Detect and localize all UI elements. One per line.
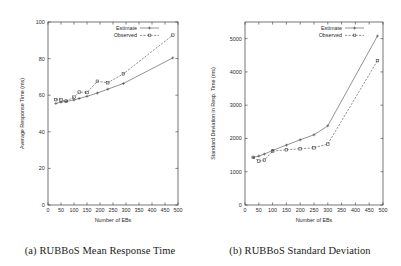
x-tick-label: 100 (268, 207, 277, 213)
y-tick-label: 100 (36, 19, 45, 25)
caption-a: (a) RUBBoS Mean Response Time (0, 245, 200, 256)
x-tick-label: 500 (174, 207, 183, 213)
y-tick-label: 0 (239, 202, 242, 208)
figure-row: 0501001502002503003504004505000204060801… (0, 0, 401, 235)
y-tick-label: 60 (39, 92, 45, 98)
x-tick-label: 200 (96, 207, 105, 213)
legend-label: Observed (114, 32, 137, 38)
legend: EstimateObserved (114, 25, 159, 38)
caption-row: (a) RUBBoS Mean Response Time (b) RUBBoS… (0, 235, 401, 266)
x-tick-label: 0 (244, 207, 247, 213)
series-estimate (252, 34, 379, 158)
y-tick-label: 4000 (230, 69, 242, 75)
y-tick-label: 5000 (230, 36, 242, 42)
x-tick-label: 450 (365, 207, 374, 213)
y-tick-label: 1000 (230, 169, 242, 175)
series-line (253, 36, 377, 157)
legend-label: Estimate (321, 25, 342, 31)
x-tick-label: 400 (148, 207, 157, 213)
data-point (376, 59, 379, 62)
legend: EstimateObserved (319, 25, 364, 38)
x-tick-label: 50 (58, 207, 64, 213)
plot-frame (48, 22, 178, 205)
x-tick-label: 50 (256, 207, 262, 213)
chart-b: 0501001502002503003504004505000100020003… (200, 0, 400, 235)
x-tick-label: 350 (135, 207, 144, 213)
y-axis-label: Standard Deviation in Resp. Time (ms) (210, 67, 216, 160)
x-axis-label: Number of EBs (296, 217, 333, 223)
y-axis-label: Average Response Time (ms) (19, 78, 25, 149)
plot-frame (245, 22, 383, 205)
series-estimate (54, 56, 174, 105)
x-tick-label: 100 (70, 207, 79, 213)
x-tick-label: 450 (161, 207, 170, 213)
caption-b: (b) RUBBoS Standard Deviation (200, 245, 400, 256)
series-line (253, 61, 377, 161)
series-line (56, 35, 173, 101)
y-tick-label: 3000 (230, 102, 242, 108)
series-observed (252, 59, 379, 162)
x-tick-label: 0 (47, 207, 50, 213)
figure-a: 0501001502002503003504004505000204060801… (0, 0, 200, 235)
legend-label: Observed (319, 32, 342, 38)
x-tick-label: 500 (379, 207, 388, 213)
series-line (56, 58, 173, 104)
y-tick-label: 80 (39, 56, 45, 62)
y-tick-label: 0 (42, 202, 45, 208)
x-tick-label: 150 (282, 207, 291, 213)
chart-a: 0501001502002503003504004505000204060801… (0, 0, 200, 235)
x-tick-label: 300 (323, 207, 332, 213)
y-tick-label: 40 (39, 129, 45, 135)
y-tick-label: 2000 (230, 135, 242, 141)
x-tick-label: 200 (296, 207, 305, 213)
x-axis-label: Number of EBs (95, 217, 132, 223)
x-tick-label: 350 (337, 207, 346, 213)
data-point (327, 143, 330, 146)
x-tick-label: 400 (351, 207, 360, 213)
x-tick-label: 150 (83, 207, 92, 213)
x-tick-label: 300 (122, 207, 131, 213)
figure-b: 0501001502002503003504004505000100020003… (200, 0, 400, 235)
y-tick-label: 20 (39, 165, 45, 171)
data-point (172, 34, 175, 37)
series-observed (55, 34, 175, 102)
figure-page: 0501001502002503003504004505000204060801… (0, 0, 401, 266)
legend-label: Estimate (116, 25, 137, 31)
x-tick-label: 250 (109, 207, 118, 213)
x-tick-label: 250 (310, 207, 319, 213)
